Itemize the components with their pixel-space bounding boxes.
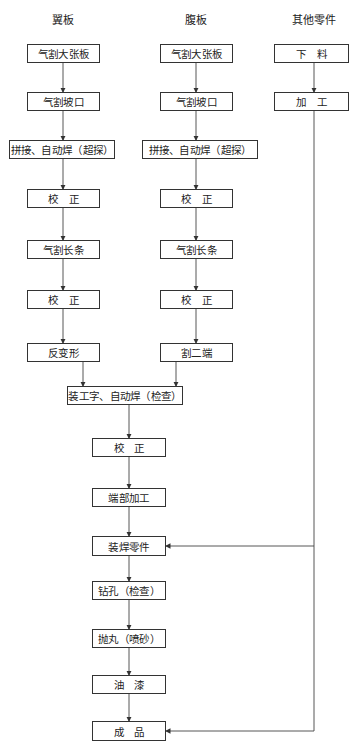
flange-column-title: 翼板 [23, 11, 103, 27]
web-step-4: 校 正 [160, 189, 233, 208]
main-step-3: 端部加工 [92, 488, 166, 507]
main-step-1: 装工字、自动焊（检查） [67, 386, 183, 405]
flange-step-7: 反变形 [27, 343, 100, 362]
flange-step-4: 校 正 [27, 189, 100, 208]
main-step-8: 成 品 [92, 721, 166, 741]
flange-step-2: 气割坡口 [27, 92, 100, 111]
web-step-7: 割二端 [160, 343, 233, 362]
flange-step-6: 校 正 [27, 290, 100, 309]
flange-step-1: 气割大张板 [27, 44, 100, 63]
connector-lines [0, 0, 359, 756]
web-column-title: 腹板 [156, 11, 236, 27]
parts-step-2: 加 工 [274, 92, 349, 111]
main-step-7: 油 漆 [92, 675, 166, 694]
main-step-2: 校 正 [92, 438, 166, 457]
web-step-1: 气割大张板 [160, 44, 233, 63]
web-step-5: 气割长条 [160, 240, 233, 259]
main-step-5: 钻孔（检查） [92, 581, 166, 600]
web-step-3: 拼接、自动焊（超探） [142, 140, 258, 159]
web-step-6: 校 正 [160, 290, 233, 309]
parts-column-title: 其他零件 [274, 11, 354, 27]
flange-step-5: 气割长条 [27, 240, 100, 259]
main-step-6: 抛丸（喷砂） [92, 629, 166, 648]
flange-step-3: 拼接、自动焊（超探） [9, 140, 115, 159]
main-step-4: 装焊零件 [92, 536, 166, 556]
parts-step-1: 下 料 [274, 44, 349, 63]
web-step-2: 气割坡口 [160, 92, 233, 111]
